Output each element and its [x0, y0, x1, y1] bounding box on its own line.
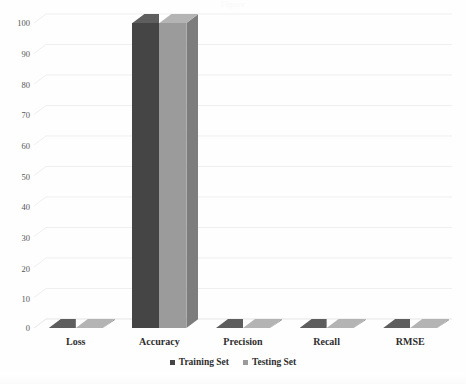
x-tick-label-rmse: RMSE	[360, 336, 460, 347]
bar-loss-testing-set[interactable]	[76, 319, 103, 328]
y-tick-label: 100	[4, 19, 30, 27]
legend-label: Training Set	[179, 357, 229, 367]
gridline	[34, 45, 452, 54]
gridline	[34, 106, 452, 115]
gridline	[34, 197, 452, 206]
bar-recall-training-set[interactable]	[300, 319, 327, 328]
bar-top-face	[132, 14, 159, 23]
gridline	[34, 14, 452, 23]
figure-bottom-margin	[0, 372, 466, 384]
legend-label: Testing Set	[252, 357, 296, 367]
bar-side-face	[186, 14, 198, 328]
legend-item-testing[interactable]: Testing Set	[243, 357, 296, 367]
bar-precision-training-set[interactable]	[216, 319, 243, 328]
bar-loss-training-set[interactable]	[49, 319, 76, 328]
y-tick-label: 10	[4, 295, 30, 303]
bar-top-face	[383, 319, 410, 328]
legend-swatch-icon	[243, 360, 248, 365]
bar-front-face	[159, 23, 186, 328]
bar-accuracy-testing-set[interactable]	[159, 14, 186, 328]
y-axis-labels: 100 90 80 70 60 50 40 30 20 10 0	[0, 0, 30, 384]
bar-top-face	[216, 319, 243, 328]
y-tick-label: 0	[4, 324, 30, 332]
y-tick-label: 90	[4, 50, 30, 58]
y-tick-label: 40	[4, 203, 30, 211]
bar-accuracy-training-set[interactable]	[132, 14, 159, 328]
gridline	[34, 258, 452, 267]
y-tick-label: 30	[4, 234, 30, 242]
gridline	[34, 167, 452, 176]
bar-front-face	[132, 23, 159, 328]
gridline	[34, 136, 452, 145]
bar-rmse-testing-set[interactable]	[410, 319, 437, 328]
y-tick-label: 80	[4, 81, 30, 89]
legend: Training Set Testing Set	[0, 357, 466, 367]
bar-precision-testing-set[interactable]	[243, 319, 270, 328]
chart-container: Figure 100 90 80 70 60 50 40 30 20 10 0 …	[0, 0, 466, 384]
bar-top-face	[49, 319, 76, 328]
y-tick-label: 60	[4, 142, 30, 150]
gridline	[34, 75, 452, 84]
bar-rmse-training-set[interactable]	[383, 319, 410, 328]
plot-area: 100 90 80 70 60 50 40 30 20 10 0 LossAcc…	[0, 0, 466, 384]
y-tick-label: 70	[4, 111, 30, 119]
bar-recall-testing-set[interactable]	[327, 319, 354, 328]
legend-swatch-icon	[170, 360, 175, 365]
legend-item-training[interactable]: Training Set	[170, 357, 229, 367]
gridline	[34, 228, 452, 237]
gridline	[34, 289, 452, 298]
bar-top-face	[300, 319, 327, 328]
y-tick-label: 50	[4, 173, 30, 181]
y-tick-label: 20	[4, 265, 30, 273]
